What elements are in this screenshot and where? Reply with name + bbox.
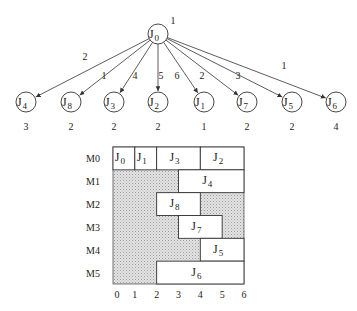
machine-label-m5: M5 [86, 268, 100, 279]
machine-label-m3: M3 [86, 222, 100, 233]
node-weight-j0: 1 [171, 15, 176, 26]
edge-weight-j5: 3 [236, 70, 241, 81]
node-weight-j5: 2 [290, 121, 295, 132]
x-tick-6: 6 [241, 289, 246, 300]
machine-label-m0: M0 [86, 153, 100, 164]
node-weight-j2: 2 [156, 121, 161, 132]
node-weight-j3: 2 [112, 121, 117, 132]
edge-j0-j7 [166, 40, 238, 95]
node-weight-j8: 2 [69, 121, 74, 132]
node-weight-j7: 2 [245, 121, 250, 132]
gantt-chart: M0M1M2M3M4M5J0J1J3J2J4J8J7J5J60123456 [86, 147, 246, 300]
x-tick-3: 3 [176, 289, 181, 300]
edge-weight-j2: 5 [159, 70, 164, 81]
machine-label-m1: M1 [86, 176, 100, 187]
edge-j0-j4 [36, 39, 149, 97]
edge-weight-j3: 4 [133, 70, 138, 81]
node-weight-j6: 4 [334, 121, 339, 132]
node-weight-j4: 3 [24, 121, 29, 132]
edge-j0-j3 [120, 42, 153, 92]
x-tick-5: 5 [220, 289, 225, 300]
edge-j0-j5 [167, 39, 282, 97]
node-weight-j1: 1 [202, 121, 207, 132]
machine-label-m2: M2 [86, 199, 100, 210]
x-tick-1: 1 [132, 289, 137, 300]
diagram-canvas: 2J431J824J325J226J112J723J521J64J01 M0M1… [0, 0, 357, 311]
task-tree: 2J431J824J325J226J112J723J521J64J01 [16, 15, 346, 132]
x-tick-0: 0 [115, 289, 120, 300]
edge-j0-j6 [167, 38, 325, 99]
edge-weight-j4: 2 [83, 51, 88, 62]
machine-label-m4: M4 [86, 245, 100, 256]
edge-weight-j6: 1 [282, 60, 287, 71]
edge-j0-j1 [164, 42, 198, 93]
edge-weight-j1: 6 [175, 70, 180, 81]
x-tick-2: 2 [154, 289, 159, 300]
edge-weight-j7: 2 [200, 70, 205, 81]
edge-weight-j8: 1 [102, 70, 107, 81]
edge-j0-j8 [80, 40, 150, 95]
x-tick-4: 4 [198, 289, 203, 300]
